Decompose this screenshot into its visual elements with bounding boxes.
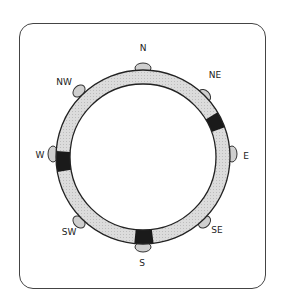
marked-segment-ne-e <box>212 116 219 130</box>
compass-ring-diagram: N NE E SE S SW W NW <box>0 0 286 304</box>
label-s: S <box>139 258 145 268</box>
label-w: W <box>36 150 45 160</box>
label-ne: NE <box>209 70 222 80</box>
label-nw: NW <box>56 77 72 87</box>
marked-segment-w <box>63 151 64 171</box>
compass-ring <box>56 70 230 244</box>
label-se: SE <box>211 225 223 235</box>
label-e: E <box>243 151 249 161</box>
label-n: N <box>140 43 147 53</box>
label-sw: SW <box>62 227 77 237</box>
marked-segment-s <box>135 236 153 237</box>
